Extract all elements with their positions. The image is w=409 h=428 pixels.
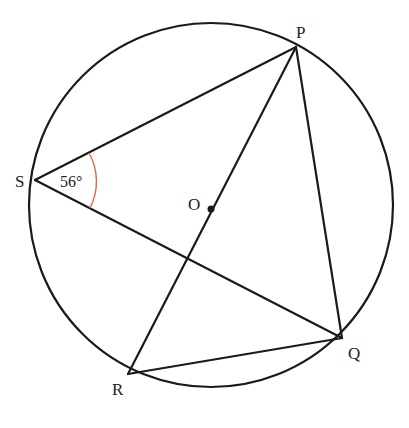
centre-point-O: [208, 206, 215, 213]
segment-SP: [35, 47, 296, 180]
label-Q: Q: [348, 344, 360, 363]
angle-arc-S: [89, 153, 96, 208]
label-R: R: [112, 380, 124, 399]
circle-geometry-diagram: P Q R S O 56°: [0, 0, 409, 428]
segment-QR: [128, 338, 342, 374]
label-P: P: [296, 23, 305, 42]
angle-label-S: 56°: [60, 173, 82, 190]
diagram-canvas: P Q R S O 56°: [0, 0, 409, 428]
label-O: O: [188, 195, 200, 214]
label-S: S: [15, 172, 24, 191]
segment-PQ: [296, 47, 342, 338]
